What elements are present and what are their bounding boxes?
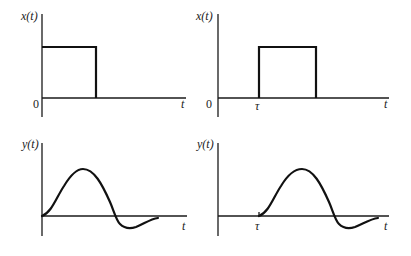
y-axis-label: x(t) (195, 9, 213, 23)
rect-pulse (42, 47, 96, 98)
panel-output-delayed: y(t) τ t (196, 137, 389, 236)
response-curve-delayed (259, 169, 378, 228)
origin-label: 0 (33, 97, 39, 111)
y-axis-label: y(t) (21, 137, 39, 151)
t-axis-label: t (181, 97, 185, 111)
t-axis-label: t (384, 97, 388, 111)
response-curve (42, 169, 158, 228)
time-invariance-diagram: x(t) 0 t x(t) 0 τ t y(t) t y(t) τ t (0, 0, 411, 256)
y-axis-label: y(t) (196, 137, 214, 151)
t-axis-label: t (182, 219, 186, 233)
rect-pulse-delayed (259, 47, 316, 98)
y-axis-label: x(t) (20, 9, 38, 23)
panel-input-no-delay: x(t) 0 t (20, 9, 186, 117)
tau-label: τ (255, 99, 260, 113)
tau-label: τ (255, 219, 260, 233)
t-axis-label: t (384, 219, 388, 233)
panel-output-no-delay: y(t) t (21, 137, 187, 236)
origin-label: 0 (206, 97, 212, 111)
panel-input-delayed: x(t) 0 τ t (195, 9, 389, 117)
